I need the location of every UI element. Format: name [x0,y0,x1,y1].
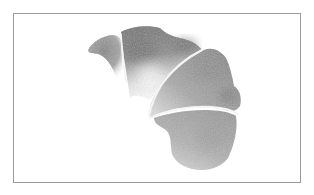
segment-bottom [154,110,237,170]
watercolor-illustration [0,0,314,195]
segment-left [88,35,124,81]
